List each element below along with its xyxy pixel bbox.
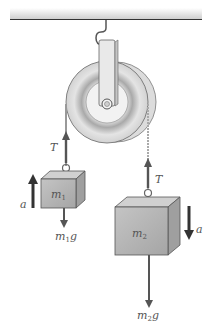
accel-label-left: a bbox=[20, 199, 27, 210]
tension-label-left: T bbox=[50, 142, 57, 153]
tension-arrow-right bbox=[144, 158, 152, 188]
weight1-label: m1g bbox=[55, 231, 77, 244]
weight-arrow-m2 bbox=[145, 255, 153, 308]
pulley bbox=[66, 40, 156, 143]
weight-arrow-m1 bbox=[60, 208, 68, 228]
accel-arrow-down bbox=[184, 206, 194, 240]
tension-arrow-left bbox=[62, 131, 70, 163]
accel-arrow-up bbox=[28, 174, 38, 208]
mass2-label: m2 bbox=[132, 228, 147, 241]
atwood-diagram bbox=[0, 0, 212, 329]
mass1-label: m1 bbox=[51, 189, 66, 202]
block2-hook-icon bbox=[145, 190, 152, 197]
weight2-label: m2g bbox=[137, 310, 159, 323]
block-m2 bbox=[115, 197, 180, 255]
ceiling bbox=[10, 8, 202, 20]
tension-label-right: T bbox=[155, 174, 162, 185]
accel-label-right: a bbox=[196, 224, 203, 235]
